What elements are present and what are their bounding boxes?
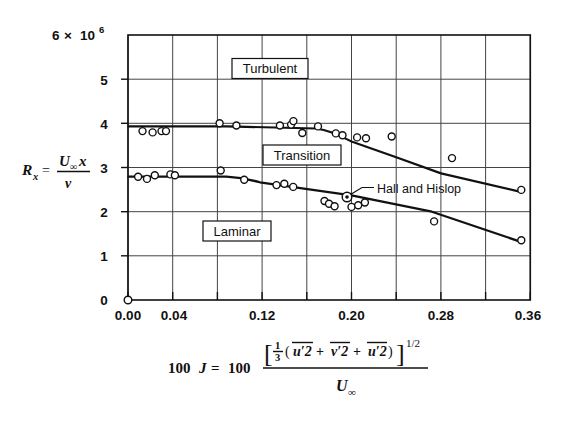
data-point <box>139 128 146 135</box>
y-tick-label-3: 3 <box>100 161 108 176</box>
y-axis-top-label: 6 × 10 6 <box>52 24 104 43</box>
data-point <box>355 202 362 209</box>
y-top-exponent: 6 <box>99 24 104 35</box>
data-point <box>361 199 368 206</box>
data-point <box>149 129 156 136</box>
transition-label: Transition <box>274 148 331 163</box>
data-point <box>331 203 338 210</box>
caption-100b: 100 <box>228 360 251 376</box>
origin-data-point <box>124 296 132 304</box>
data-point <box>216 120 223 127</box>
caption-plus-2: + <box>353 344 361 359</box>
data-point <box>276 122 283 129</box>
zone-label-transition: Transition <box>263 145 341 165</box>
y-tick-label-0: 0 <box>100 293 108 308</box>
x-tick-label-4: 0.28 <box>428 308 455 323</box>
x-tick-label-1: 0.04 <box>161 308 188 323</box>
y-tick-marks <box>121 79 128 256</box>
figure-container: 6 × 10 6 5 4 3 2 1 0 R x = U ∞ x ν 0.00 … <box>0 0 563 423</box>
data-point <box>315 123 322 130</box>
x-tick-label-0: 0.00 <box>115 308 141 323</box>
data-point <box>163 128 170 135</box>
data-point <box>431 218 438 225</box>
x-tick-label-5: 0.36 <box>515 308 542 323</box>
data-point <box>299 130 306 137</box>
y-top-times: × <box>64 28 72 43</box>
laminar-label: Laminar <box>214 224 262 239</box>
y-axis-R: R <box>21 161 32 178</box>
caption-denominator-sub: ∞ <box>348 386 356 398</box>
caption-term-3: u′2 <box>368 344 387 359</box>
data-point <box>135 173 142 180</box>
hall-hislop-label: Hall and Hislop <box>377 182 461 196</box>
caption-paren-open-real: ( <box>285 344 290 360</box>
y-axis-R-sub: x <box>32 171 38 182</box>
caption-bracket-open: [ <box>264 339 273 368</box>
data-point <box>241 176 248 183</box>
caption-bracket-close: ] <box>396 339 405 368</box>
hall-hislop-leader-line <box>351 188 375 195</box>
data-point <box>518 237 525 244</box>
caption-100a: 100 <box>168 360 191 376</box>
data-point <box>388 133 395 140</box>
x-tick-label-2: 0.12 <box>249 308 275 323</box>
x-tick-labels: 0.00 0.04 0.12 0.20 0.28 0.36 <box>115 308 542 323</box>
zone-label-turbulent: Turbulent <box>232 59 308 79</box>
zone-label-laminar: Laminar <box>203 221 271 241</box>
data-point <box>290 118 297 125</box>
data-point <box>290 183 297 190</box>
data-point <box>151 172 158 179</box>
caption-paren-close: ) <box>388 344 393 360</box>
y-tick-label-4: 4 <box>100 117 108 132</box>
x-tick-marks <box>128 292 530 300</box>
curve-lower-boundary <box>129 177 522 242</box>
turbulent-label: Turbulent <box>243 61 298 76</box>
caption-exponent: 1/2 <box>406 337 420 349</box>
x-axis-caption: 100 J = 100 [ 1 3 ( u′2 + v′2 + u′2 ) ] … <box>168 337 428 398</box>
plot-grid <box>128 35 530 300</box>
y-tick-labels: 5 4 3 2 1 0 <box>100 73 108 309</box>
caption-frac-den: 3 <box>275 352 280 363</box>
y-axis-title: R x = U ∞ x ν <box>21 153 90 191</box>
x-tick-label-3: 0.20 <box>338 308 364 323</box>
data-point <box>144 175 151 182</box>
y-top-base: 10 <box>80 28 95 43</box>
chart-svg: 6 × 10 6 5 4 3 2 1 0 R x = U ∞ x ν 0.00 … <box>0 0 563 423</box>
data-point <box>273 182 280 189</box>
y-axis-numerator-x: x <box>78 153 87 169</box>
data-point <box>449 155 456 162</box>
data-point <box>171 172 178 179</box>
data-point <box>233 122 240 129</box>
data-point <box>363 135 370 142</box>
data-point <box>339 132 346 139</box>
hall-and-hislop-marker <box>342 192 352 202</box>
caption-term-1: u′2 <box>293 344 312 359</box>
caption-frac-num: 1 <box>275 340 280 351</box>
data-point <box>217 167 224 174</box>
data-point <box>354 134 361 141</box>
y-top-value: 6 <box>52 28 60 43</box>
caption-equals: = <box>211 360 220 376</box>
y-tick-label-5: 5 <box>100 73 108 88</box>
y-tick-label-2: 2 <box>100 205 108 220</box>
caption-term-2: v′2 <box>331 344 348 359</box>
y-axis-denominator-nu: ν <box>65 176 72 191</box>
y-tick-label-1: 1 <box>100 249 108 264</box>
data-point <box>348 203 355 210</box>
caption-J: J <box>198 360 207 376</box>
data-point <box>332 130 339 137</box>
caption-plus-1: + <box>316 344 324 359</box>
data-point <box>518 186 525 193</box>
y-axis-numerator-U-sub: ∞ <box>70 161 77 172</box>
y-axis-equals: = <box>42 163 50 178</box>
data-point <box>281 180 288 187</box>
annotation-hall-and-hislop: Hall and Hislop <box>351 182 462 196</box>
